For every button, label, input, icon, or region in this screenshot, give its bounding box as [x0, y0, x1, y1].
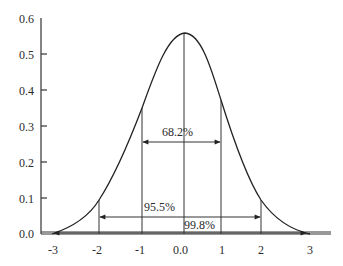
x-tick-label: -3: [48, 243, 58, 257]
y-tick-label: 0.5: [19, 48, 34, 62]
x-axis: -3 -2 -1 0.0 1 2 3: [41, 232, 331, 257]
annotation-68: 68.2%: [143, 125, 220, 142]
y-tick-label: 0.3: [19, 120, 34, 134]
normal-distribution-chart: 0.6 0.5 0.4 0.3 0.2 0.1 0.0 -3 -2 -1 0.0…: [0, 0, 343, 266]
annotation-99: 99.8%: [54, 218, 306, 233]
annotation-label: 99.8%: [184, 218, 215, 232]
y-tick-label: 0.0: [19, 227, 34, 241]
y-axis: 0.6 0.5 0.4 0.3 0.2 0.1 0.0: [19, 12, 47, 241]
annotation-label: 68.2%: [162, 125, 193, 139]
x-tick-label: 2: [258, 243, 264, 257]
annotation-label: 95.5%: [144, 200, 175, 214]
y-tick-label: 0.4: [19, 84, 34, 98]
x-tick-label: 0.0: [173, 243, 188, 257]
x-tick-label: 3: [307, 243, 313, 257]
annotation-95: 95.5%: [100, 200, 260, 217]
x-tick-label: -1: [135, 243, 145, 257]
y-tick-label: 0.1: [19, 192, 34, 206]
y-tick-label: 0.6: [19, 12, 34, 26]
x-tick-label: 1: [219, 243, 225, 257]
y-tick-label: 0.2: [19, 156, 34, 170]
x-tick-label: -2: [92, 243, 102, 257]
